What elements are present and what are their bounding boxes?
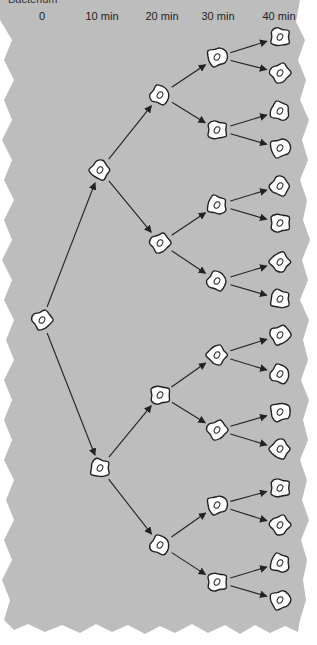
bacterium-cell-icon (208, 573, 227, 591)
time-label: 30 min (201, 10, 234, 22)
bacterium-cell-icon (91, 458, 110, 476)
bacterial-division-diagram (0, 0, 317, 645)
bacterium-cell-icon (271, 479, 290, 497)
bacterium-cell-icon (271, 214, 290, 232)
time-label: 10 min (85, 10, 118, 22)
bacterium-cell-icon (270, 553, 288, 572)
bacterium-cell-icon (271, 289, 290, 308)
bacterium-cell-icon (208, 121, 227, 139)
bacterium-cell-icon (271, 403, 291, 421)
time-label: 20 min (145, 10, 178, 22)
time-label: 0 (39, 10, 45, 22)
bacterium-cell-icon (207, 195, 225, 214)
diagram-title: Bacterium (8, 0, 58, 5)
bacterium-cell-icon (271, 28, 290, 46)
bacterium-cell-icon (151, 386, 170, 404)
time-label: 40 min (262, 10, 295, 22)
